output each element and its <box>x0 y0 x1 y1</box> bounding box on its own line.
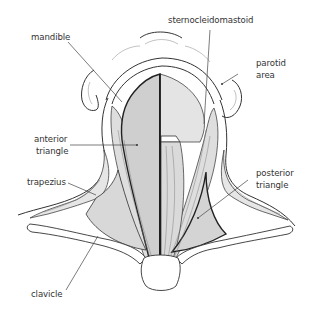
left-ear-icon <box>82 70 99 111</box>
right-ear-icon <box>222 80 242 118</box>
label-anterior-line2: triangle <box>36 146 68 157</box>
face-contour-left <box>112 46 140 60</box>
clavicle-leader <box>66 236 98 290</box>
face-contour-right <box>185 46 210 62</box>
label-clavicle: clavicle <box>31 289 62 300</box>
label-posterior-line1: posterior <box>256 168 294 179</box>
label-anterior-line1: anterior <box>34 134 67 145</box>
head-contour <box>140 32 182 38</box>
anterior-dot <box>136 144 138 146</box>
right-ear-inner <box>230 90 236 110</box>
label-posterior-line2: triangle <box>256 180 288 191</box>
manubrium <box>141 255 180 291</box>
mandible-leader <box>68 42 122 102</box>
label-sternocleidomastoid: sternocleidomastoid <box>168 15 253 26</box>
label-parotid-line1: parotid <box>256 58 286 69</box>
left-ear-inner <box>88 82 92 104</box>
right-anterior-region <box>160 74 205 142</box>
head-contour-inner <box>145 40 178 45</box>
posterior-dot <box>197 217 199 219</box>
label-trapezius: trapezius <box>27 177 66 188</box>
parotid-dot <box>221 83 223 85</box>
label-parotid-line2: area <box>256 70 275 81</box>
label-mandible: mandible <box>31 32 70 43</box>
